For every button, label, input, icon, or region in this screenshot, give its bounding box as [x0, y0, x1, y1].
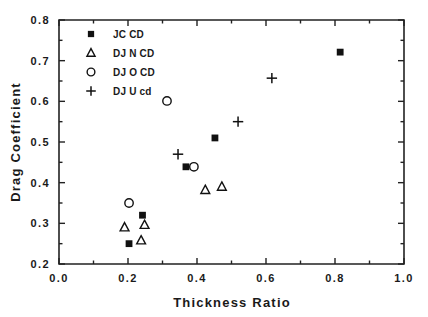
marker-filled-square	[139, 212, 146, 219]
y-tick-label: 0.3	[31, 217, 51, 229]
y-tick-label: 0.8	[31, 14, 51, 26]
x-tick-label: 0.2	[118, 272, 138, 284]
chart-background	[0, 0, 428, 317]
y-tick-label: 0.6	[31, 95, 51, 107]
legend-entry-label: DJ N CD	[113, 48, 154, 59]
x-tick-label: 0.6	[256, 272, 276, 284]
filled-square-marker	[139, 212, 146, 219]
y-tick-label: 0.7	[31, 55, 51, 67]
filled-square-marker	[212, 135, 219, 142]
y-tick-label: 0.5	[31, 136, 51, 148]
x-tick-label: 1.0	[394, 272, 414, 284]
y-tick-label: 0.4	[31, 177, 51, 189]
filled-square-marker	[183, 163, 190, 170]
marker-filled-square	[88, 31, 94, 37]
x-tick-label: 0.4	[187, 272, 207, 284]
x-tick-label: 0.0	[49, 272, 69, 284]
y-axis-title: Drag Coefficient	[8, 82, 23, 202]
legend-entry-label: DJ U cd	[113, 86, 152, 97]
x-axis-title: Thickness Ratio	[173, 295, 291, 310]
marker-filled-square	[183, 163, 190, 170]
legend-entry-label: DJ O CD	[113, 67, 155, 78]
filled-square-marker	[88, 31, 94, 37]
filled-square-marker	[126, 240, 133, 247]
marker-filled-square	[126, 240, 133, 247]
y-tick-label: 0.2	[31, 258, 51, 270]
marker-filled-square	[212, 135, 219, 142]
marker-filled-square	[337, 49, 344, 56]
filled-square-marker	[337, 49, 344, 56]
scatter-chart-figure: 0.00.20.40.60.81.0 0.20.30.40.50.60.70.8…	[0, 0, 428, 317]
legend-entry-label: JC CD	[113, 29, 144, 40]
chart-canvas: 0.00.20.40.60.81.0 0.20.30.40.50.60.70.8…	[0, 0, 428, 317]
x-tick-label: 0.8	[325, 272, 345, 284]
